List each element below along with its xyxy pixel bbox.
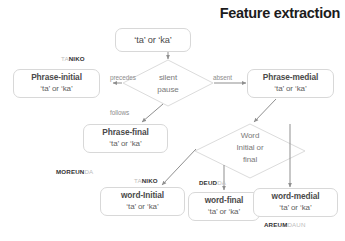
decision-word-position-line2: Initial or xyxy=(218,142,282,154)
tag-taniko-bottom-light: TA xyxy=(134,177,142,184)
node-phrase-final[interactable]: Phrase-final ‘ta’ or ‘ka’ xyxy=(83,124,168,153)
node-root[interactable]: ‘ta’ or ‘ka’ xyxy=(115,28,191,52)
node-word-medial[interactable]: word-medial ‘ta’ or ‘ka’ xyxy=(253,188,338,217)
node-phrase-final-line1: Phrase-final xyxy=(102,128,148,138)
node-root-line1: ‘ta’ or ‘ka’ xyxy=(134,35,171,46)
tag-taniko-bottom: TANIKO xyxy=(134,177,158,184)
node-phrase-initial-line2: ‘ta’ or ‘ka’ xyxy=(40,84,72,93)
decision-word-position[interactable]: Word Initial or final xyxy=(218,130,282,166)
decision-silent-pause-line2: pause xyxy=(143,84,193,96)
tag-moreunda-light: DA xyxy=(84,168,93,175)
node-word-medial-line2: ‘ta’ or ‘ka’ xyxy=(279,203,311,212)
node-phrase-medial-line2: ‘ta’ or ‘ka’ xyxy=(274,84,306,93)
tag-moreunda: MOREUNDA xyxy=(56,168,93,175)
connector-phrase-medial-to-word-position xyxy=(254,99,276,122)
edge-label-absent: absent xyxy=(213,74,232,81)
tag-areumdaun-bold: AREUM xyxy=(264,221,287,228)
tag-taniko-bottom-bold: NIKO xyxy=(142,177,158,184)
node-phrase-final-line2: ‘ta’ or ‘ka’ xyxy=(109,139,141,148)
decision-word-position-line3: final xyxy=(218,154,282,166)
node-phrase-initial[interactable]: Phrase-initial ‘ta’ or ‘ka’ xyxy=(13,69,100,98)
tag-taniko-top-bold: NIKO xyxy=(69,55,85,62)
node-word-final-line2: ‘ta’ or ‘ka’ xyxy=(208,207,240,216)
edge-label-precedes: precedes xyxy=(110,74,136,81)
node-phrase-initial-line1: Phrase-initial xyxy=(31,73,82,83)
node-phrase-medial-line1: Phrase-medial xyxy=(263,73,318,83)
feature-extraction-diagram: Feature extraction ‘ta’ or ‘ka’ xyxy=(0,0,345,241)
tag-areumdaun-light: DAUN xyxy=(287,221,305,228)
node-word-initial-line2: ‘ta’ or ‘ka’ xyxy=(126,202,158,211)
node-word-final[interactable]: word-final ‘ta’ or ‘ka’ xyxy=(188,192,260,221)
tag-taniko-top-light: TA xyxy=(61,55,69,62)
tag-areumdaun: AREUMDAUN xyxy=(264,221,306,228)
decision-silent-pause-line1: silent xyxy=(143,72,193,84)
tag-taniko-top: TANIKO xyxy=(61,55,85,62)
node-word-initial-line1: word-Initial xyxy=(121,191,164,201)
tag-deudda-light: DA xyxy=(217,179,226,186)
node-word-final-line1: word-final xyxy=(205,196,244,206)
decision-silent-pause[interactable]: silent pause xyxy=(143,72,193,96)
connector-silent-pause-to-phrase-final xyxy=(142,104,163,122)
node-phrase-medial[interactable]: Phrase-medial ‘ta’ or ‘ka’ xyxy=(247,69,334,98)
edge-label-follows: follows xyxy=(110,109,129,116)
node-word-medial-line1: word-medial xyxy=(272,192,320,202)
tag-moreunda-bold: MOREUN xyxy=(56,168,84,175)
page-title: Feature extraction xyxy=(220,5,340,21)
node-word-initial[interactable]: word-Initial ‘ta’ or ‘ka’ xyxy=(100,187,185,216)
tag-deudda: DEUDDA xyxy=(199,179,226,186)
connector-word-position-to-word-initial xyxy=(162,149,196,185)
tag-deudda-bold: DEUD xyxy=(199,179,217,186)
decision-word-position-line1: Word xyxy=(218,130,282,142)
